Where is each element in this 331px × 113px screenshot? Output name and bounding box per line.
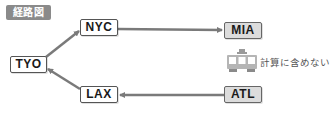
node-atl: ATL [224,86,262,103]
edge-lax-tyo [48,69,80,89]
legend-text: 計算に含めない [260,55,330,69]
node-nyc: NYC [80,19,118,36]
node-mia: MIA [224,22,262,39]
node-lax: LAX [80,86,118,103]
edge-nyc-mia [117,29,222,30]
node-tyo: TYO [10,56,47,73]
train-icon [226,48,258,74]
edge-tyo-nyc [46,31,79,57]
